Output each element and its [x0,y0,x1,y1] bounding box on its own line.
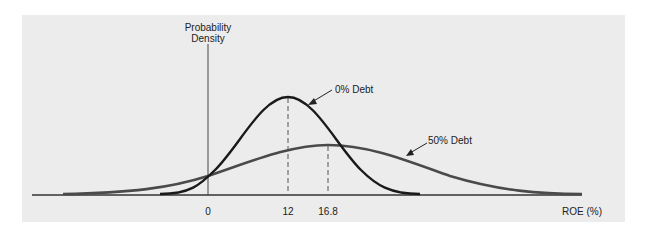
curve-50-debt [63,145,582,194]
legend-0-debt: 0% Debt [335,84,373,95]
x-tick-0: 0 [205,206,211,217]
legend-50-debt: 50% Debt [428,135,472,146]
x-tick-16-8: 16.8 [318,206,337,217]
chart-plot [0,0,648,229]
arrowhead-50-debt-icon [406,149,414,156]
y-axis-label: Probability Density [185,22,232,44]
y-axis-label-line2: Density [185,33,232,44]
arrowhead-0-debt-icon [308,98,317,105]
y-axis-label-line1: Probability [185,22,232,33]
x-tick-12: 12 [282,206,293,217]
arrow-50-debt [410,143,427,153]
x-axis-label: ROE (%) [562,206,602,217]
